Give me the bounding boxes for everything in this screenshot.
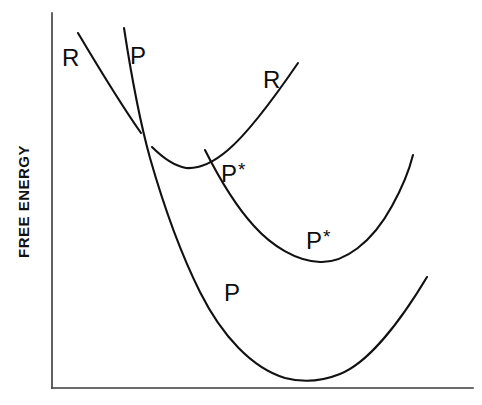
label-R-left-text: R [62, 44, 79, 71]
label-Pstar-upper-text: P [221, 160, 237, 187]
label-Pstar-lower-star: * [323, 226, 330, 247]
label-Pstar-upper-star: * [238, 159, 245, 180]
free-energy-diagram: FREE ENERGY R P R P* P* P [0, 0, 482, 405]
label-Pstar-lower-text: P [306, 227, 322, 254]
label-R-right-text: R [263, 66, 280, 93]
label-P-left-text: P [130, 42, 146, 69]
label-P-bottom-text: P [224, 279, 240, 306]
label-P-left: P [130, 42, 147, 68]
label-P-bottom: P [224, 279, 241, 305]
label-Pstar-upper: P* [221, 160, 245, 186]
curve-R [78, 33, 298, 168]
label-R-left: R [62, 44, 80, 70]
y-axis-title: FREE ENERGY [15, 117, 32, 287]
label-R-right: R [263, 66, 281, 92]
label-Pstar-lower: P* [306, 227, 330, 253]
